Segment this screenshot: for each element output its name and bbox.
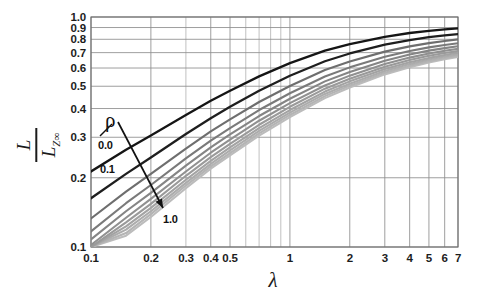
x-axis-title: λ [268,268,277,293]
y-tick-0-8: 0.8 [71,33,86,45]
y-tick-0-2: 0.2 [71,172,86,184]
rho-parameter-symbol: ρ [105,108,115,133]
chart-figure: 0.10.20.30.40.50.60.70.80.91.0 0.10.20.3… [0,0,480,303]
y-axis-numerator: L [14,134,35,157]
x-tick-6: 6 [442,252,448,264]
y-tick-0-9: 0.9 [71,22,86,34]
x-tick-0-1: 0.1 [83,252,98,264]
x-tick-0-2: 0.2 [143,252,158,264]
y-axis-denominator: LZ∞ [37,129,62,162]
x-tick-7: 7 [455,252,461,264]
curve-label-rho-0: 0.0 [98,139,113,151]
y-tick-0-7: 0.7 [71,47,86,59]
x-tick-1: 1 [287,252,293,264]
curve-label-rho-1-0: 1.0 [163,213,178,225]
y-axis-title: L LZ∞ [8,90,68,200]
curve-00 [91,28,458,171]
y-tick-0-4: 0.4 [71,103,86,115]
x-tick-4: 4 [407,252,413,264]
y-tick-0-3: 0.3 [71,131,86,143]
x-tick-2: 2 [347,252,353,264]
x-tick-0-4: 0.4 [203,252,218,264]
y-tick-0-6: 0.6 [71,62,86,74]
x-tick-3: 3 [382,252,388,264]
y-tick-1-0: 1.0 [71,11,86,23]
y-tick-0-5: 0.5 [71,80,86,92]
x-tick-0-5: 0.5 [222,252,237,264]
denominator-base: L [38,147,59,158]
curve-label-rho-0-1: 0.1 [100,163,115,175]
x-tick-0-3: 0.3 [178,252,193,264]
x-tick-5: 5 [426,252,432,264]
denominator-subscript: Z∞ [50,133,62,147]
rho-direction-arrow [118,122,163,208]
